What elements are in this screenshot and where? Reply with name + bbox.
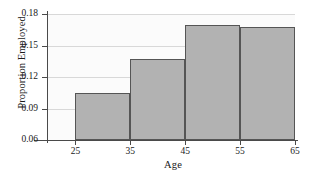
x-tick-label: 65	[283, 146, 307, 156]
x-tick-label: 45	[173, 146, 197, 156]
y-tick-mark	[42, 109, 47, 110]
y-tick-mark	[42, 77, 47, 78]
x-tick-mark	[295, 140, 296, 145]
histogram-bar	[130, 59, 185, 140]
y-tick-label: 0.06	[2, 134, 38, 144]
y-tick-mark	[42, 140, 47, 141]
y-tick-mark	[42, 14, 47, 15]
gridline	[48, 14, 295, 15]
x-tick-mark	[130, 140, 131, 145]
x-axis-title: Age	[48, 159, 298, 170]
x-tick-mark	[185, 140, 186, 145]
histogram-bar	[75, 93, 130, 140]
y-tick-mark	[42, 46, 47, 47]
histogram-bar	[185, 25, 240, 141]
x-tick-label: 55	[228, 146, 252, 156]
x-tick-mark	[75, 140, 76, 145]
y-axis-line	[47, 11, 48, 143]
plot-area	[48, 14, 295, 140]
y-axis-title: Proportion Employed	[16, 0, 27, 128]
x-tick-label: 35	[118, 146, 142, 156]
x-tick-mark	[240, 140, 241, 145]
histogram-bar	[240, 27, 295, 140]
x-tick-label: 25	[63, 146, 87, 156]
x-axis-line	[34, 140, 298, 141]
histogram-figure: 0.060.090.120.150.18 2535455565 Proporti…	[0, 0, 318, 177]
